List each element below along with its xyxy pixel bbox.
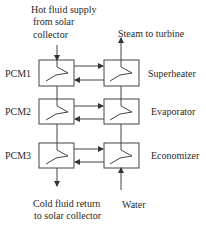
evaporator-coil-icon (110, 99, 132, 120)
steam-label: Steam to turbine (118, 28, 184, 39)
diagram-canvas: Hot fluid supply from solar collector St… (0, 0, 206, 226)
pcm2-label: PCM2 (5, 106, 31, 117)
superheater-label: Superheater (148, 68, 196, 79)
economizer-label: Economizer (151, 150, 199, 161)
pcm1-coil-icon (46, 60, 68, 81)
pcm2-coil-icon (46, 99, 68, 120)
hot-supply-label-line3: collector (33, 29, 68, 40)
cold-return-label-line2: to solar collector (34, 210, 101, 221)
hot-supply-label-line2: from solar (33, 16, 74, 27)
superheater-coil-icon (110, 60, 132, 81)
cold-return-label-line1: Cold fluid return (33, 198, 100, 209)
evaporator-label: Evaporator (151, 106, 195, 117)
pcm3-label: PCM3 (5, 150, 31, 161)
pcm1-label: PCM1 (5, 68, 31, 79)
economizer-coil-icon (110, 143, 132, 164)
pcm3-coil-icon (46, 143, 68, 164)
water-label: Water (122, 199, 146, 210)
hot-supply-label-line1: Hot fluid supply (31, 4, 97, 15)
